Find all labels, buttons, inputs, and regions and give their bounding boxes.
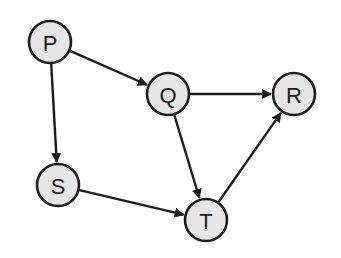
edge-t-to-r: [219, 113, 281, 202]
node-t: T: [185, 199, 227, 241]
node-label: R: [286, 83, 302, 108]
node-q: Q: [147, 73, 189, 115]
edge-p-to-s: [51, 64, 56, 162]
directed-graph: PQRST: [0, 0, 341, 258]
node-label: T: [199, 209, 212, 234]
node-label: S: [51, 174, 66, 199]
edge-p-to-q: [70, 51, 147, 85]
edge-s-to-t: [79, 190, 183, 215]
edge-q-to-t: [174, 115, 199, 198]
nodes-group: PQRST: [29, 21, 315, 241]
node-label: P: [43, 31, 58, 56]
node-s: S: [37, 164, 79, 206]
node-p: P: [29, 21, 71, 63]
node-label: Q: [159, 83, 176, 108]
node-r: R: [273, 73, 315, 115]
